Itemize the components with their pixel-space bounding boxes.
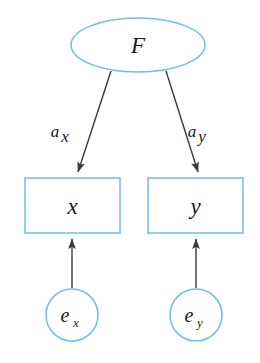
node-observed-y: y — [148, 178, 243, 233]
edge-F-to-y: a y — [166, 71, 206, 172]
edge-label-ax: a — [51, 122, 60, 141]
node-error-ey: e y — [170, 289, 222, 341]
node-label-ey: e — [185, 304, 194, 326]
edge-line-F-to-x — [78, 71, 111, 172]
edge-subscript-ay: y — [196, 127, 206, 146]
node-label-ex: e — [61, 304, 70, 326]
diagram-canvas: F x y e x e y a x — [0, 0, 260, 363]
node-label-x: x — [66, 194, 78, 219]
node-label-y: y — [188, 194, 201, 219]
edge-subscript-ax: x — [60, 127, 69, 146]
node-error-ex: e x — [46, 289, 98, 341]
path-diagram: F x y e x e y a x — [0, 0, 260, 363]
node-subscript-ex: x — [72, 315, 79, 330]
node-subscript-ey: y — [195, 315, 203, 330]
node-observed-x: x — [25, 178, 120, 233]
edge-label-ay: a — [188, 122, 197, 141]
node-factor-F: F — [71, 18, 205, 72]
edge-F-to-x: a x — [51, 71, 111, 172]
node-label-F: F — [130, 33, 146, 58]
circle-shape-ex — [46, 289, 98, 341]
circle-shape-ey — [170, 289, 222, 341]
